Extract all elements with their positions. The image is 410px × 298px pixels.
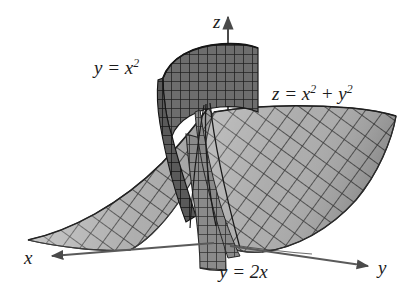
label-cylinder-equation: y = x2 <box>94 58 139 77</box>
label-paraboloid-equation: z = x2 + y2 <box>272 84 353 103</box>
axis-label-x: x <box>24 248 32 267</box>
paraboloid-right-wing <box>201 106 396 252</box>
axis-label-y: y <box>378 258 386 277</box>
label-paraboloid-exponent-2: 2 <box>347 83 353 96</box>
surface-scene <box>0 0 410 298</box>
axis-label-z: z <box>213 12 220 31</box>
label-cylinder-exponent: 2 <box>133 57 139 70</box>
label-paraboloid-lhs: z = x <box>272 83 310 104</box>
label-cylinder-base: y = x <box>94 57 133 78</box>
label-paraboloid-mid: + y <box>316 83 347 104</box>
figure-canvas: y = x2 z = x2 + y2 y = 2x x y z <box>0 0 410 298</box>
label-plane-equation: y = 2x <box>219 262 268 281</box>
